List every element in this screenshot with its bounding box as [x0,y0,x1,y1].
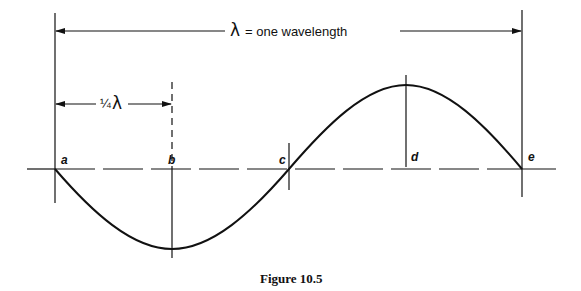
point-label-b: b [168,153,175,167]
wavelength-symbol: λ [230,20,240,40]
quarter-symbol: λ [112,93,122,113]
point-label-a: a [61,153,68,167]
point-label-d: d [411,150,419,164]
sine-wave-diagram: λ = one wavelength ¼ λ a b c d e Figure … [0,0,581,291]
quarter-fraction: ¼ [100,96,111,111]
point-label-e: e [528,150,535,164]
figure-caption: Figure 10.5 [260,271,323,286]
wavelength-label: = one wavelength [245,24,347,39]
point-label-c: c [279,153,286,167]
